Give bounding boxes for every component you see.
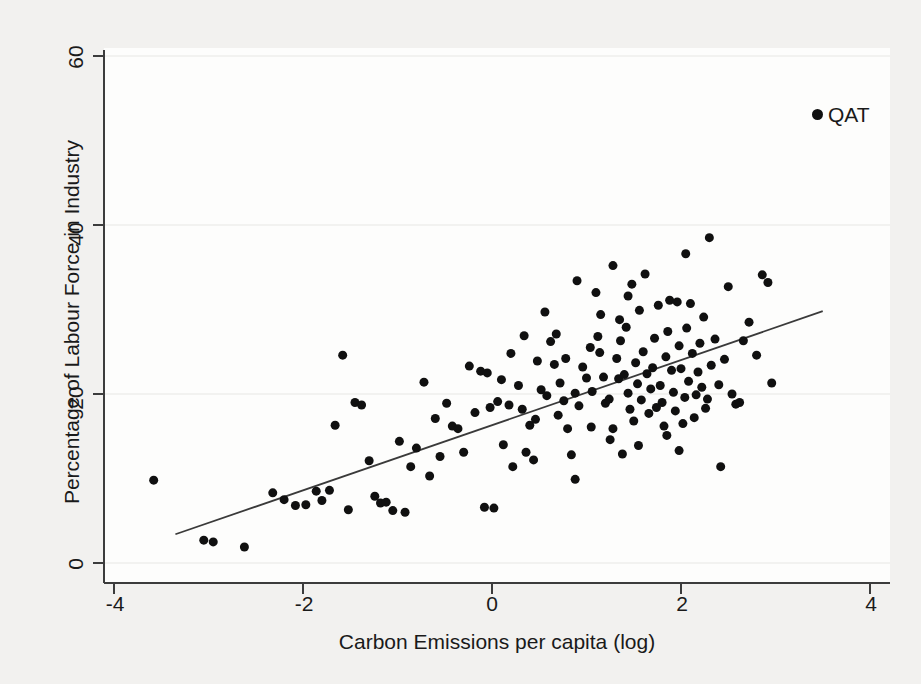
gridlines [104, 56, 890, 563]
regression-line [175, 311, 822, 534]
scatter-points [149, 233, 776, 551]
x-tick-label-minus2: -2 [284, 592, 324, 616]
y-tick-label-60: 60 [64, 37, 88, 77]
axis-lines [104, 50, 890, 583]
tick-marks [93, 56, 870, 594]
x-axis-title: Carbon Emissions per capita (log) [104, 630, 890, 654]
y-axis-title: Percentage of Labour Force in Industry [60, 87, 84, 557]
x-tick-label-4: 4 [851, 592, 891, 616]
legend: QAT [812, 104, 870, 125]
x-tick-label-2: 2 [662, 592, 702, 616]
plot-canvas [0, 0, 921, 684]
legend-marker-dot-icon [812, 109, 823, 120]
x-tick-label-0: 0 [472, 592, 512, 616]
x-tick-label-minus4: -4 [95, 592, 135, 616]
legend-label-qat: QAT [828, 104, 870, 125]
scatter-plot-figure: 60 40 20 0 -4 -2 0 2 4 Percentage of Lab… [0, 0, 921, 684]
